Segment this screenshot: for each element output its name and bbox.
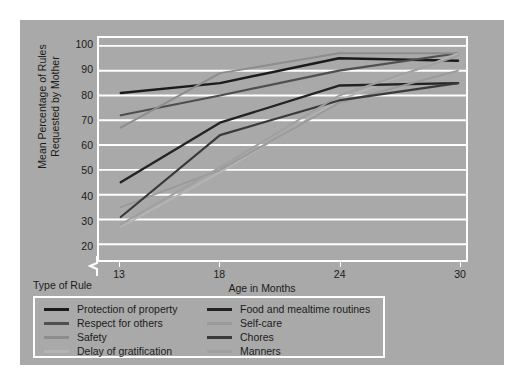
legend-item-label: Self-care	[240, 318, 282, 329]
x-axis-title: Age in Months	[20, 282, 504, 294]
legend-item[interactable]: Protection of property	[44, 303, 177, 316]
legend-column-right: Food and mealtime routinesSelf-careChore…	[207, 303, 370, 359]
figure-panel: Mean Percentage of Rules Requested by Mo…	[20, 20, 504, 365]
legend-item[interactable]: Chores	[207, 331, 370, 344]
legend-swatch-icon	[44, 336, 69, 339]
x-axis-tick-mark	[460, 262, 461, 267]
legend-swatch-icon	[207, 322, 232, 325]
y-axis-tick-label: 20	[81, 241, 93, 251]
legend-swatch-icon	[207, 350, 232, 353]
y-axis-tick-label: 40	[81, 191, 93, 201]
plot-area	[97, 36, 468, 262]
legend-item-label: Delay of gratification	[77, 346, 172, 357]
legend-item-label: Protection of property	[77, 304, 177, 315]
legend-item-label: Chores	[240, 332, 274, 343]
data-series-lines	[99, 38, 466, 260]
legend-column-left: Protection of propertyRespect for others…	[44, 303, 177, 359]
legend-swatch-icon	[207, 336, 232, 339]
legend-swatch-icon	[44, 322, 69, 325]
y-axis-tick-label: 30	[81, 216, 93, 226]
x-axis-tick-label: 30	[454, 268, 466, 280]
legend-swatch-icon	[44, 350, 69, 353]
legend-item[interactable]: Respect for others	[44, 317, 177, 330]
legend-swatch-icon	[44, 308, 69, 311]
x-axis-tick-label: 13	[113, 268, 125, 280]
x-axis-tick-label: 24	[334, 268, 346, 280]
series-line	[121, 58, 458, 93]
y-axis-tick-label: 60	[81, 140, 93, 150]
legend-box: Protection of propertyRespect for others…	[33, 296, 385, 358]
series-line	[121, 53, 458, 227]
series-line	[121, 83, 458, 217]
legend-item[interactable]: Manners	[207, 345, 370, 358]
x-axis-tick-mark	[119, 262, 120, 267]
y-axis-tick-label: 70	[81, 115, 93, 125]
legend-item[interactable]: Delay of gratification	[44, 345, 177, 358]
legend-item-label: Manners	[240, 346, 281, 357]
y-axis-tick-label: 90	[81, 64, 93, 74]
legend-item-label: Safety	[77, 332, 107, 343]
y-axis-tick-labels: 2030405060708090100	[53, 30, 93, 270]
y-axis-tick-label: 50	[81, 165, 93, 175]
legend-title: Type of Rule	[33, 279, 92, 291]
y-axis-tick-label: 100	[75, 39, 93, 49]
legend-item-label: Food and mealtime routines	[240, 304, 370, 315]
x-axis-tick-label: 18	[213, 268, 225, 280]
legend-item[interactable]: Food and mealtime routines	[207, 303, 370, 316]
series-line	[121, 83, 458, 182]
y-axis-tick-label: 80	[81, 90, 93, 100]
legend-item[interactable]: Self-care	[207, 317, 370, 330]
legend-item[interactable]: Safety	[44, 331, 177, 344]
legend-item-label: Respect for others	[77, 318, 163, 329]
legend-swatch-icon	[207, 308, 232, 311]
x-axis-tick-mark	[219, 262, 220, 267]
x-axis-tick-mark	[340, 262, 341, 267]
